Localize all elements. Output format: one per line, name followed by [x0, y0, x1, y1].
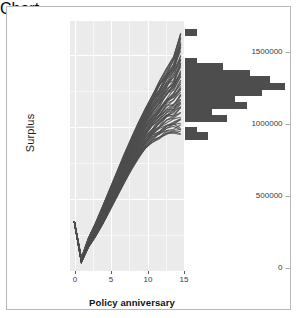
surplus-paths: [70, 21, 185, 271]
x-tick-mark: [184, 271, 185, 274]
x-tick-mark: [111, 271, 112, 274]
x-tick-label: 5: [99, 275, 123, 284]
x-tick-label: 15: [172, 275, 196, 284]
terminal-value-histogram: [185, 21, 290, 141]
y-axis-title: Surplus: [24, 88, 36, 178]
histogram-bar: [185, 29, 197, 36]
surplus-path: [74, 33, 180, 258]
x-tick-mark: [75, 271, 76, 274]
y-tick-label: 500000–: [228, 191, 290, 200]
histogram-bar: [185, 132, 208, 139]
x-tick-label: 10: [136, 275, 160, 284]
x-axis-title: Policy anniversary: [37, 297, 227, 308]
y-tick-label: 0–: [228, 263, 290, 272]
figure-border: Surplus Policy anniversary: [6, 6, 291, 310]
x-tick-mark: [148, 271, 149, 274]
chart-figure: Surplus Policy anniversary: [7, 7, 290, 309]
histogram-bar: [185, 115, 227, 122]
x-tick-label: 0: [63, 275, 87, 284]
